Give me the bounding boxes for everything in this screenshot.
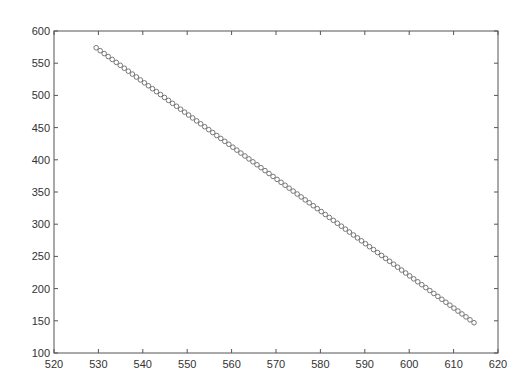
y-tick-label: 450 <box>32 122 50 134</box>
y-tick-label: 200 <box>32 283 50 295</box>
x-tick-label: 540 <box>134 358 152 370</box>
x-tick-label: 590 <box>356 358 374 370</box>
x-tick-label: 580 <box>311 358 329 370</box>
x-tick-label: 610 <box>444 358 462 370</box>
y-tick-label: 400 <box>32 154 50 166</box>
x-tick-label: 620 <box>489 358 507 370</box>
x-tick-label: 600 <box>400 358 418 370</box>
y-tick-label: 150 <box>32 315 50 327</box>
x-tick-label: 570 <box>267 358 285 370</box>
x-tick-label: 530 <box>89 358 107 370</box>
y-tick-label: 550 <box>32 57 50 69</box>
scatter-chart: 520530540550560570580590600610620 100150… <box>0 0 531 387</box>
y-tick-label: 600 <box>32 25 50 37</box>
y-tick-label: 350 <box>32 186 50 198</box>
y-tick-label: 250 <box>32 250 50 262</box>
y-tick-label: 500 <box>32 89 50 101</box>
plot-area <box>54 31 498 353</box>
y-tick-label: 300 <box>32 218 50 230</box>
x-tick-label: 560 <box>222 358 240 370</box>
x-tick-label: 550 <box>178 358 196 370</box>
x-tick-label: 520 <box>45 358 63 370</box>
y-tick-label: 100 <box>32 347 50 359</box>
